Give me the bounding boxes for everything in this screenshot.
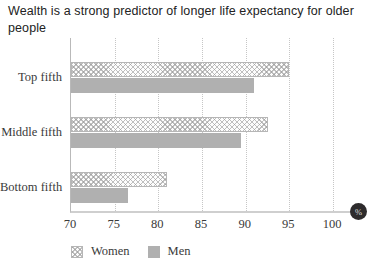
bar-men-middle-fifth [71, 133, 241, 148]
x-axis-tick-labels: 707580859095100 [70, 217, 360, 233]
bar-men-top-fifth [71, 78, 254, 93]
gridline-100 [333, 38, 334, 211]
chart-figure: Wealth is a strong predictor of longer l… [0, 0, 377, 266]
x-tick-label-100: 100 [323, 217, 342, 232]
legend-label-men: Men [168, 244, 191, 259]
category-label-middle-fifth: Middle fifth [0, 125, 62, 140]
plot-area [70, 38, 353, 213]
bar-women-top-fifth [71, 62, 289, 77]
bar-men-bottom-fifth [71, 188, 128, 203]
bar-women-bottom-fifth [71, 172, 167, 187]
category-label-bottom-fifth: Bottom fifth [0, 180, 62, 195]
x-tick-label-80: 80 [151, 217, 164, 232]
x-tick-label-75: 75 [107, 217, 120, 232]
legend: WomenMen [71, 244, 191, 259]
x-tick-label-95: 95 [282, 217, 295, 232]
legend-swatch-men [148, 246, 160, 258]
legend-swatch-women [71, 246, 83, 258]
x-tick-label-70: 70 [64, 217, 77, 232]
x-tick-label-90: 90 [238, 217, 251, 232]
legend-item-men: Men [148, 244, 191, 259]
legend-label-women: Women [91, 244, 130, 259]
x-tick-label-85: 85 [195, 217, 208, 232]
percent-unit-badge: % [350, 203, 367, 220]
category-label-top-fifth: Top fifth [0, 70, 62, 85]
gridline-95 [289, 38, 290, 211]
legend-item-women: Women [71, 244, 130, 259]
bar-women-middle-fifth [71, 117, 268, 132]
chart-title: Wealth is a strong predictor of longer l… [8, 3, 364, 37]
